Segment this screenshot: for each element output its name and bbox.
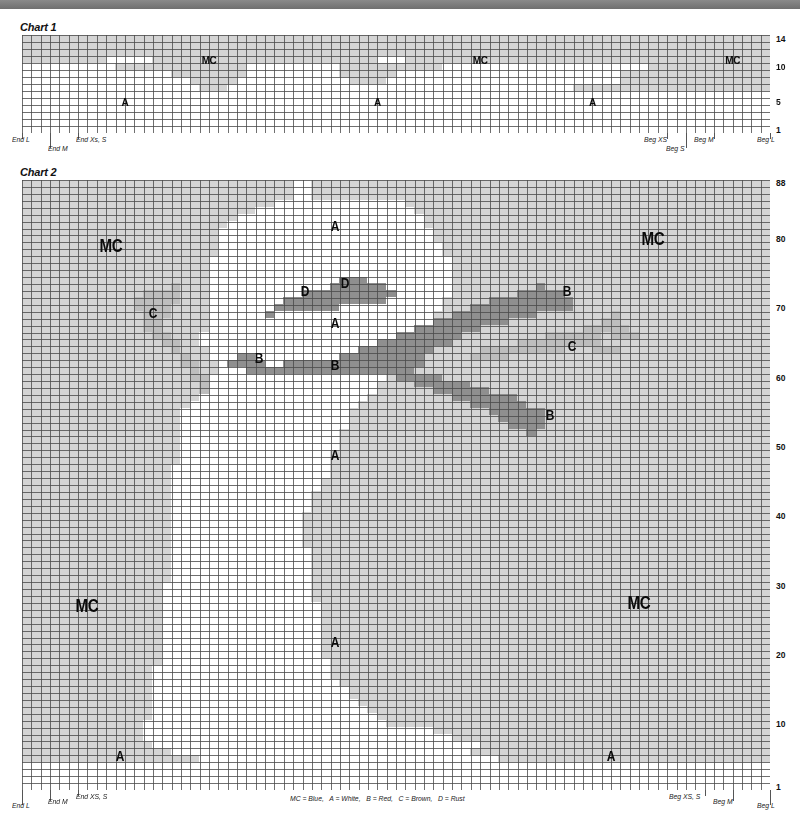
region-label-d: D <box>340 273 348 290</box>
top-banner-strip <box>0 0 800 9</box>
row-number: 30 <box>776 581 785 591</box>
region-label-a: A <box>607 747 615 764</box>
size-marker-label: Beg L <box>757 135 775 144</box>
region-label-b: B <box>563 281 571 298</box>
row-number: 40 <box>776 511 785 521</box>
region-label-a: A <box>331 445 339 462</box>
row-number: 60 <box>776 373 785 383</box>
row-number: 50 <box>776 442 785 452</box>
region-label-b: B <box>546 406 554 423</box>
region-label-mc: MC <box>202 54 217 65</box>
region-label-c: C <box>568 336 576 353</box>
region-label-a: A <box>121 96 128 107</box>
region-label-b: B <box>331 355 339 372</box>
size-tick <box>714 133 715 139</box>
row-number: 20 <box>776 650 785 660</box>
row-number: 80 <box>776 234 785 244</box>
region-label-d: D <box>301 281 309 298</box>
row-number: 1 <box>776 782 781 792</box>
knitting-chart-canvas <box>22 35 770 133</box>
row-number: 5 <box>776 97 781 107</box>
size-tick <box>686 133 687 148</box>
size-tick <box>667 133 668 139</box>
size-marker-label: End M <box>48 797 68 806</box>
row-number: 14 <box>776 34 785 44</box>
size-marker-label: Beg M <box>713 797 733 806</box>
chart1-title: Chart 1 <box>20 21 57 33</box>
color-legend: MC = Blue, A = White, B = Red, C = Brown… <box>290 794 465 803</box>
size-marker-label: Beg S <box>666 144 685 153</box>
row-number: 1 <box>776 125 781 135</box>
row-number: 10 <box>776 719 785 729</box>
region-label-mc: MC <box>99 235 122 257</box>
size-tick <box>705 790 706 796</box>
region-label-mc: MC <box>473 54 488 65</box>
region-label-mc: MC <box>628 592 651 614</box>
region-label-a: A <box>331 217 339 234</box>
size-marker-label: End L <box>12 135 30 144</box>
row-number: 70 <box>776 303 785 313</box>
chart2-title: Chart 2 <box>20 166 57 178</box>
region-label-mc: MC <box>725 54 740 65</box>
size-marker-label: End Xs, S <box>76 135 106 144</box>
size-marker-label: Beg M <box>694 135 714 144</box>
region-label-mc: MC <box>76 595 99 617</box>
region-label-a: A <box>589 96 596 107</box>
region-label-c: C <box>149 303 157 320</box>
region-label-a: A <box>116 747 124 764</box>
size-marker-label: Beg L <box>757 801 775 810</box>
size-marker-label: End L <box>12 801 30 810</box>
region-label-a: A <box>331 314 339 331</box>
row-number: 10 <box>776 62 785 72</box>
size-marker-label: End M <box>48 144 68 153</box>
region-label-b: B <box>254 348 262 365</box>
size-tick <box>733 790 734 801</box>
region-label-a: A <box>331 632 339 649</box>
size-marker-label: End XS, S <box>76 792 107 801</box>
size-marker-label: Beg XS <box>644 135 667 144</box>
chart1-grid <box>22 35 770 133</box>
row-number: 88 <box>776 178 785 188</box>
chart2-grid <box>22 180 770 790</box>
size-marker-label: Beg XS, S <box>669 792 700 801</box>
region-label-a: A <box>374 96 381 107</box>
knitting-chart-canvas <box>22 180 770 790</box>
region-label-mc: MC <box>642 228 665 250</box>
